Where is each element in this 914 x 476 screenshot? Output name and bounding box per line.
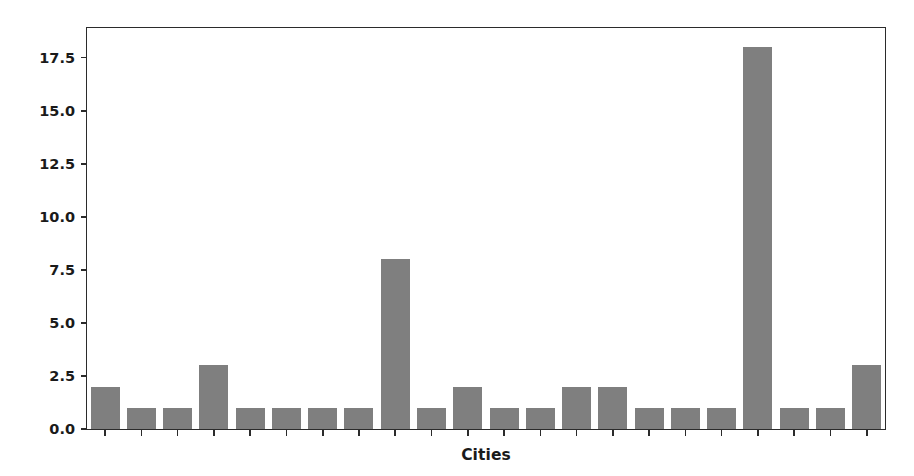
bar-slot — [377, 28, 413, 429]
x-tick-mark — [358, 430, 360, 436]
x-tick-mark — [177, 430, 179, 436]
x-tick-mark — [503, 430, 505, 436]
bar — [598, 387, 627, 429]
bar — [163, 408, 192, 429]
bar-slot — [160, 28, 196, 429]
y-tick-label: 17.5 — [31, 50, 75, 66]
bar-slot — [522, 28, 558, 429]
bar-slot — [740, 28, 776, 429]
x-tick-mark — [540, 430, 542, 436]
x-tick-mark — [141, 430, 143, 436]
x-tick-slot — [413, 430, 449, 437]
y-tick-label: 0.0 — [31, 421, 75, 437]
x-tick-slot — [776, 430, 812, 437]
bar — [743, 47, 772, 429]
x-tick-slot — [268, 430, 304, 437]
bar-slot — [196, 28, 232, 429]
x-tick-mark — [685, 430, 687, 436]
x-tick-slot — [704, 430, 740, 437]
x-tick-mark — [648, 430, 650, 436]
x-tick-slot — [486, 430, 522, 437]
bar-slot — [305, 28, 341, 429]
x-axis-ticks — [87, 430, 885, 437]
bar-slot — [776, 28, 812, 429]
bar-slot — [486, 28, 522, 429]
x-tick-mark — [286, 430, 288, 436]
y-tick-label: 15.0 — [31, 103, 75, 119]
bar-slot — [268, 28, 304, 429]
y-tick-label: 2.5 — [31, 368, 75, 384]
bar — [199, 365, 228, 429]
x-tick-slot — [377, 430, 413, 437]
x-tick-slot — [341, 430, 377, 437]
x-tick-slot — [450, 430, 486, 437]
bar-slot — [558, 28, 594, 429]
x-tick-slot — [522, 430, 558, 437]
x-tick-mark — [576, 430, 578, 436]
x-tick-mark — [757, 430, 759, 436]
bar — [562, 387, 591, 429]
bar-slot — [123, 28, 159, 429]
bar — [780, 408, 809, 429]
bar-slot — [595, 28, 631, 429]
bar-slot — [450, 28, 486, 429]
bar-slot — [631, 28, 667, 429]
x-tick-slot — [558, 430, 594, 437]
bar — [272, 408, 301, 429]
bar — [453, 387, 482, 429]
x-tick-slot — [631, 430, 667, 437]
x-tick-mark — [322, 430, 324, 436]
bar-slot — [413, 28, 449, 429]
x-tick-slot — [595, 430, 631, 437]
x-tick-slot — [305, 430, 341, 437]
bar — [308, 408, 337, 429]
bar — [236, 408, 265, 429]
x-tick-slot — [196, 430, 232, 437]
y-tick-label: 10.0 — [31, 209, 75, 225]
bar — [671, 408, 700, 429]
x-tick-mark — [467, 430, 469, 436]
x-tick-slot — [123, 430, 159, 437]
bar-slot — [667, 28, 703, 429]
bar-chart-figure: store count 0.02.55.07.510.012.515.017.5… — [0, 0, 914, 476]
x-tick-mark — [431, 430, 433, 436]
bar-slot — [849, 28, 885, 429]
bar-slot — [704, 28, 740, 429]
x-tick-slot — [232, 430, 268, 437]
bar — [91, 387, 120, 429]
x-tick-slot — [87, 430, 123, 437]
bar — [417, 408, 446, 429]
x-tick-mark — [830, 430, 832, 436]
bar — [344, 408, 373, 429]
x-tick-mark — [213, 430, 215, 436]
x-tick-mark — [394, 430, 396, 436]
x-tick-mark — [249, 430, 251, 436]
x-tick-slot — [160, 430, 196, 437]
bar — [816, 408, 845, 429]
bar — [707, 408, 736, 429]
bar-slot — [341, 28, 377, 429]
bars-container — [87, 28, 885, 429]
y-tick-label: 12.5 — [31, 156, 75, 172]
bar — [852, 365, 881, 429]
x-tick-slot — [667, 430, 703, 437]
y-tick-label: 5.0 — [31, 315, 75, 331]
x-tick-mark — [721, 430, 723, 436]
x-tick-slot — [740, 430, 776, 437]
bar — [127, 408, 156, 429]
x-tick-mark — [104, 430, 106, 436]
x-axis-label: Cities — [86, 446, 886, 464]
x-tick-mark — [866, 430, 868, 436]
x-tick-slot — [812, 430, 848, 437]
bar — [381, 259, 410, 429]
bar — [526, 408, 555, 429]
bar — [490, 408, 519, 429]
x-tick-mark — [612, 430, 614, 436]
bar-slot — [232, 28, 268, 429]
bar — [635, 408, 664, 429]
x-tick-slot — [849, 430, 885, 437]
x-tick-mark — [793, 430, 795, 436]
bar-slot — [87, 28, 123, 429]
bar-slot — [812, 28, 848, 429]
y-tick-label: 7.5 — [31, 262, 75, 278]
